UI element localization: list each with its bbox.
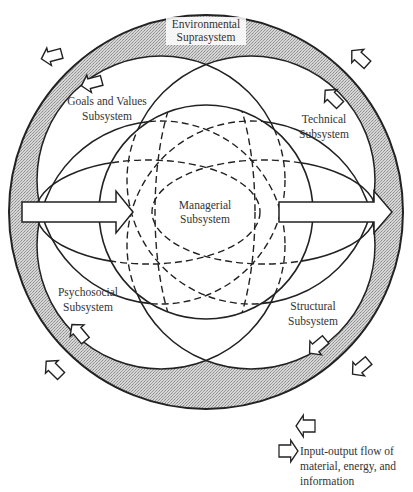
psychosocial-label-line1: Psychosocial [58,286,118,299]
legend-line1: Input-output flow of [300,445,394,458]
managerial-label-line2: Subsystem [180,213,230,226]
legend-arrow-up-icon [296,415,315,437]
technical-label-line1: Technical [302,113,347,125]
environment-label-line1: Environmental [172,18,240,30]
flow-arrow-icon [40,355,68,383]
technical-label-line2: Subsystem [299,128,349,141]
flow-arrow-icon [39,45,64,68]
goals-label-line2: Subsystem [82,110,132,123]
goals-label-line1: Goals and Values [67,95,147,107]
flow-arrow-icon [347,354,375,381]
legend-line3: information [300,475,355,487]
structural-label-line1: Structural [290,300,335,312]
flow-arrow-icon [346,44,374,71]
legend-arrow-icon [279,440,298,462]
structural-label-line2: Subsystem [288,315,338,328]
psychosocial-label-line2: Subsystem [63,301,113,314]
legend-line2: material, energy, and [300,460,396,473]
systems-diagram: Environmental Suprasystem Goals and Valu… [0,0,413,492]
environment-label-line2: Suprasystem [177,31,236,44]
managerial-label-line1: Managerial [179,199,231,212]
